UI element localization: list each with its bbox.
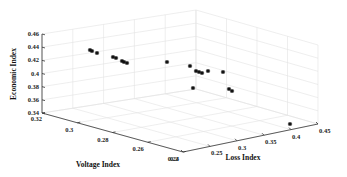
data-point xyxy=(206,69,210,73)
data-point xyxy=(200,71,204,75)
z-tick-label: 0.38 xyxy=(28,83,40,90)
data-point xyxy=(165,60,169,64)
y-tick-label: 0.32 xyxy=(31,115,42,122)
z-tick-label: 0.42 xyxy=(28,56,39,63)
z-tick-label: 0.44 xyxy=(28,43,40,50)
data-point xyxy=(230,89,234,93)
data-point xyxy=(191,86,195,90)
z-tick-label: 0.4 xyxy=(31,70,40,77)
data-point xyxy=(90,49,94,53)
x-axis-label: Loss Index xyxy=(226,153,261,162)
y-tick-label: 0.3 xyxy=(65,126,74,133)
x-tick-label: 0.45 xyxy=(319,127,331,134)
y-tick-label: 0.28 xyxy=(97,136,109,143)
x-tick-label: 0.2 xyxy=(170,155,178,162)
x-tick-label: 0.35 xyxy=(265,138,277,145)
z-tick-label: 0.46 xyxy=(28,30,40,37)
data-point xyxy=(125,61,129,65)
data-point xyxy=(288,122,292,126)
y-tick-label: 0.26 xyxy=(132,145,144,152)
data-point xyxy=(221,70,225,74)
z-axis-label: Economic Index xyxy=(9,48,18,100)
x-tick-label: 0.4 xyxy=(292,133,301,140)
data-point xyxy=(95,51,99,55)
data-point xyxy=(188,64,192,68)
data-point xyxy=(114,56,118,60)
tick-labels: 0.460.440.420.40.380.360.340.320.30.280.… xyxy=(28,30,332,162)
x-tick-label: 0.3 xyxy=(238,144,247,151)
grid-lines xyxy=(42,10,318,152)
z-tick-label: 0.36 xyxy=(28,96,40,103)
scatter3d-chart: 0.460.440.420.40.380.360.340.320.30.280.… xyxy=(0,0,347,177)
x-tick-label: 0.25 xyxy=(211,149,223,156)
y-axis-label: Voltage Index xyxy=(76,160,120,169)
